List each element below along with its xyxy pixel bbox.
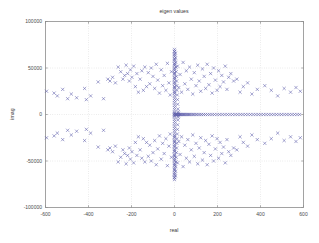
x-tick-label: -400	[83, 211, 93, 217]
chart-title: eigen values	[159, 8, 189, 14]
x-tick-label: -200	[126, 211, 136, 217]
x-tick-label: 0	[173, 211, 176, 217]
y-tick-label: 0	[39, 111, 42, 117]
y-tick-label: -50000	[26, 158, 42, 164]
y-tick-label: -100000	[24, 204, 43, 210]
y-tick-label: 50000	[28, 65, 42, 71]
x-axis-label: real	[170, 227, 179, 233]
plot-background	[0, 0, 319, 243]
x-tick-label: 200	[213, 211, 222, 217]
x-tick-label: -600	[40, 211, 50, 217]
y-axis-label: imag	[9, 108, 15, 119]
y-tick-label: 100000	[25, 18, 42, 24]
eigenvalue-scatter-figure: -600-400-2000200400600 -100000-500000500…	[0, 0, 319, 243]
x-tick-label: 400	[256, 211, 265, 217]
x-tick-label: 600	[299, 211, 308, 217]
plot-canvas: -600-400-2000200400600 -100000-500000500…	[0, 0, 319, 243]
